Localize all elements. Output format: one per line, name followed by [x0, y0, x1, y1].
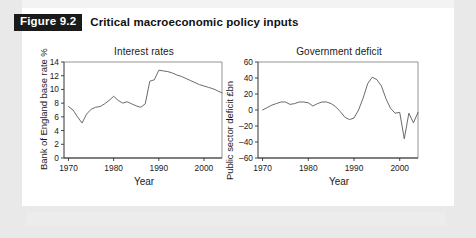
plot-area-interest-rates: 024681012141970198019902000 — [36, 58, 226, 178]
svg-text:1990: 1990 — [345, 163, 364, 173]
figure-number-badge: Figure 9.2 — [14, 14, 82, 31]
chart-title-government-deficit: Government deficit — [222, 46, 422, 57]
svg-text:14: 14 — [50, 58, 60, 67]
svg-text:1970: 1970 — [59, 163, 78, 173]
figure-caption: Figure 9.2 Critical macroeconomic policy… — [14, 14, 298, 31]
svg-text:1980: 1980 — [299, 163, 318, 173]
svg-text:12: 12 — [50, 71, 60, 81]
svg-text:2000: 2000 — [195, 163, 214, 173]
page-top-margin — [22, 0, 454, 8]
figure-title: Critical macroeconomic policy inputs — [90, 16, 298, 28]
figure-page: Figure 9.2 Critical macroeconomic policy… — [0, 0, 476, 238]
svg-text:2000: 2000 — [390, 163, 409, 173]
svg-text:4: 4 — [54, 126, 59, 136]
svg-text:8: 8 — [54, 98, 59, 108]
svg-text:1990: 1990 — [149, 163, 168, 173]
chart-title-interest-rates: Interest rates — [36, 46, 226, 57]
svg-text:10: 10 — [50, 84, 60, 94]
chart-government-deficit: Government deficit Public sector deficit… — [222, 46, 422, 196]
plot-area-government-deficit: –60–40–2002040601970198019902000 — [222, 58, 422, 178]
svg-text:0: 0 — [54, 153, 59, 163]
page-bottom-margin — [26, 212, 446, 226]
svg-text:2: 2 — [54, 139, 59, 149]
svg-text:20: 20 — [244, 89, 254, 99]
svg-text:1970: 1970 — [253, 163, 272, 173]
svg-text:–20: –20 — [239, 121, 253, 131]
svg-text:40: 40 — [244, 73, 254, 83]
chart-interest-rates: Interest rates Bank of England base rate… — [36, 46, 226, 196]
svg-text:1980: 1980 — [104, 163, 123, 173]
svg-text:–60: –60 — [239, 153, 253, 163]
svg-text:60: 60 — [244, 58, 254, 67]
svg-text:0: 0 — [248, 105, 253, 115]
svg-text:6: 6 — [54, 112, 59, 122]
svg-text:–40: –40 — [239, 137, 253, 147]
